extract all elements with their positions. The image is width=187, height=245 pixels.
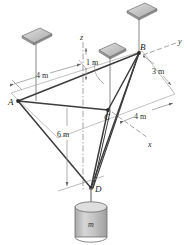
dimension-1m-top-label: 1 m	[86, 58, 99, 67]
dimension-4m-left-label: 4 m	[36, 71, 49, 80]
point-label-a: A	[7, 97, 14, 107]
point-label-d: D	[94, 184, 102, 194]
dimension-4m-left	[12, 60, 87, 90]
cable-b-d-strand	[93, 53, 139, 188]
member-b-c	[108, 53, 139, 110]
axis-x-label: x	[147, 140, 152, 149]
joint-a	[16, 99, 20, 103]
dimension-6m-drop	[58, 108, 104, 191]
axis-y-label: y	[177, 37, 182, 46]
dimension-4m-right-label: 4 m	[134, 112, 147, 121]
hanging-mass-label: m	[88, 220, 94, 229]
axis-z-label: z	[79, 33, 84, 42]
plate-b	[127, 3, 157, 20]
plate-middle	[99, 43, 126, 59]
point-label-c: C	[104, 112, 111, 122]
point-label-b: B	[140, 42, 146, 52]
plate-a	[22, 28, 52, 45]
cable-a-d	[18, 101, 91, 188]
dimension-4m-right	[124, 103, 173, 121]
statics-diagram: z y x A B C D 4	[0, 0, 187, 245]
dimension-3m-right-label: 3 m	[152, 67, 165, 76]
member-a-c	[18, 101, 108, 110]
dimension-6m-drop-label: 6 m	[57, 130, 70, 139]
axis-y	[143, 43, 176, 55]
